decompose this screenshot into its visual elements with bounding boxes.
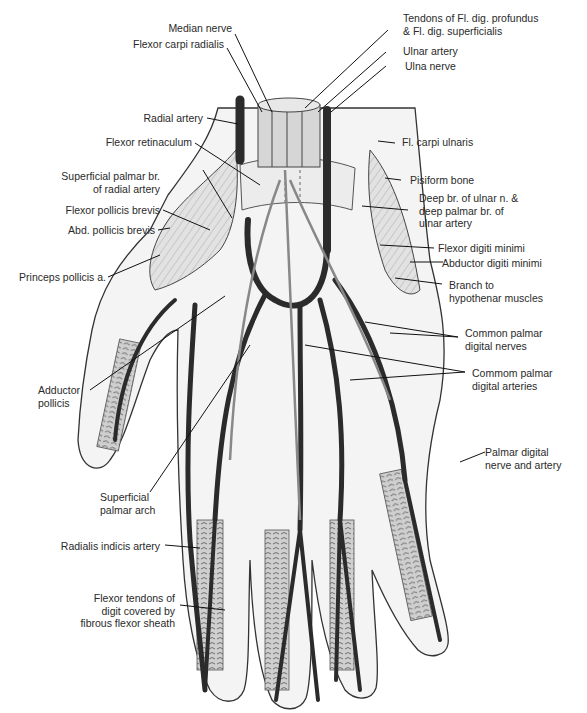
label-deep-br-ulnar: Deep br. of ulnar n. & deep palmar br. o… [419, 192, 518, 230]
label-flexor-carpi-radialis: Flexor carpi radialis [100, 38, 224, 51]
tendon-bundle [258, 98, 320, 167]
label-pisiform-bone: Pisiform bone [410, 174, 474, 187]
label-superficial-palmar-br: Superficial palmar br. of radial artery [40, 170, 160, 195]
hand-anatomy-figure: Median nerve Flexor carpi radialis Tendo… [0, 0, 587, 713]
label-ulna-nerve: Ulna nerve [405, 60, 456, 73]
label-common-palmar-arteries: Commom palmar digital arteries [472, 367, 553, 392]
label-radial-artery: Radial artery [100, 112, 203, 125]
label-flexor-pollicis-brevis: Flexor pollicis brevis [30, 204, 160, 217]
label-common-palmar-nerves: Common palmar digital nerves [465, 327, 543, 352]
label-branch-hypothenar: Branch to hypothenar muscles [449, 279, 543, 304]
label-ulnar-artery: Ulnar artery [403, 45, 458, 58]
label-radialis-indicis: Radialis indicis artery [30, 540, 160, 553]
label-superficial-palmar-arch: Superficial palmar arch [100, 491, 155, 516]
label-princeps-pollicis: Princeps pollicis a. [0, 271, 106, 284]
label-flexor-tendons-digit: Flexor tendons of digit covered by fibro… [60, 592, 175, 630]
label-median-nerve: Median nerve [120, 22, 232, 35]
label-palmar-digital-nerve-artery: Palmar digital nerve and artery [485, 446, 561, 471]
label-abductor-digiti-minimi: Abductor digiti minimi [442, 257, 542, 270]
label-fl-carpi-ulnaris: Fl. carpi ulnaris [402, 136, 473, 149]
label-flexor-retinaculum: Flexor retinaculum [90, 136, 192, 149]
label-tendons-fl-dig: Tendons of Fl. dig. profundus & Fl. dig.… [403, 12, 538, 37]
label-abd-pollicis-brevis: Abd. pollicis brevis [30, 224, 155, 237]
label-flexor-digiti-minimi: Flexor digiti minimi [438, 242, 525, 255]
label-adductor-pollicis: Adductor pollicis [38, 384, 80, 409]
